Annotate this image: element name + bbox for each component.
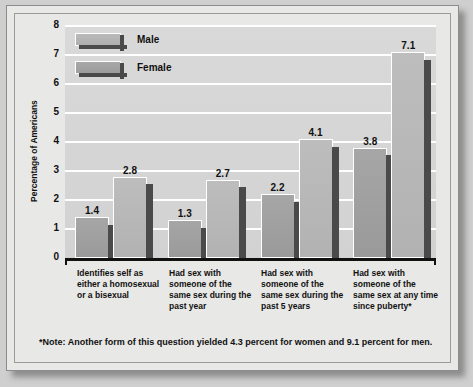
bar-value-label: 2.2 (271, 182, 285, 193)
bar-male: 2.2 (261, 194, 295, 258)
bar-value-label: 1.3 (178, 208, 192, 219)
chart-card: Percentage of Americans 876543210 1.42.8… (6, 5, 459, 371)
bar-value-label: 2.7 (216, 168, 230, 179)
bar-shadow (146, 184, 153, 258)
bar-male: 3.8 (353, 148, 387, 258)
bar-male: 1.3 (168, 220, 202, 258)
y-axis-tick-label: 6 (53, 78, 59, 88)
x-axis-category-label: Had sex with someone of the same sex dur… (169, 268, 261, 312)
bar-female: 4.1 (299, 139, 333, 258)
bar-male: 1.4 (75, 217, 109, 258)
bar-value-label: 1.4 (85, 205, 99, 216)
bar-value-label: 3.8 (363, 136, 377, 147)
legend-swatch-female-icon (75, 61, 121, 74)
bar-shadow (239, 187, 246, 258)
bar-group: 2.24.1 (251, 26, 344, 258)
x-axis-category-label: Had sex with someone of the same sex at … (353, 268, 445, 312)
x-axis-category-label: Identifies self as either a homosexual o… (77, 268, 169, 312)
plot-area: 876543210 1.42.81.32.72.24.13.87.1 Male … (65, 26, 436, 258)
bar-shadow (424, 60, 431, 259)
legend-label-male: Male (137, 33, 159, 47)
bar-female: 2.7 (206, 180, 240, 258)
y-axis-tick-label: 5 (53, 107, 59, 117)
bar-value-label: 4.1 (309, 127, 323, 138)
y-axis-tick-label: 4 (53, 136, 59, 146)
bar-female: 2.8 (113, 177, 147, 258)
bar-chart: Percentage of Americans 876543210 1.42.8… (19, 20, 444, 295)
bar-female: 7.1 (391, 52, 425, 258)
y-axis-title: Percentage of Americans (29, 86, 39, 216)
y-axis-tick-label: 8 (53, 20, 59, 30)
x-axis-category-label: Had sex with someone of the same sex dur… (261, 268, 353, 312)
y-axis-tick-label: 7 (53, 49, 59, 59)
bar-group: 1.32.7 (158, 26, 251, 258)
y-axis-tick-label: 3 (53, 165, 59, 175)
x-axis-line (65, 258, 436, 261)
bar-group: 3.87.1 (343, 26, 436, 258)
chart-footnote: *Note: Another form of this question yie… (39, 336, 439, 348)
bar-value-label: 7.1 (401, 40, 415, 51)
y-axis-tick-label: 0 (53, 252, 59, 262)
bar-value-label: 2.8 (123, 165, 137, 176)
y-axis-tick-label: 1 (53, 223, 59, 233)
bar-shadow (332, 147, 339, 259)
x-axis-category-labels: Identifies self as either a homosexual o… (77, 268, 473, 312)
legend-label-female: Female (137, 61, 171, 75)
y-axis-tick-label: 2 (53, 194, 59, 204)
legend-swatch-male-icon (75, 33, 121, 46)
